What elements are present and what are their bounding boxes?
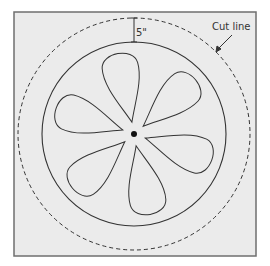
diagram-canvas: 5" Cut line [0,0,270,266]
cut-line-label: Cut line [212,21,250,32]
measurement-label: 5" [136,27,147,38]
center-dot [131,131,137,137]
